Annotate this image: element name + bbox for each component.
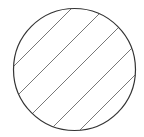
hatched-circle-figure bbox=[0, 0, 144, 137]
hatch-lines bbox=[0, 0, 144, 137]
circle-outline bbox=[14, 9, 136, 131]
